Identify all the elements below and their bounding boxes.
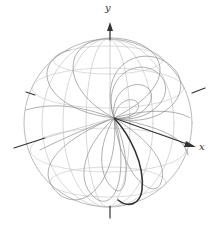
x-axis-label: x — [199, 141, 205, 152]
sphere-diagram — [0, 0, 215, 230]
y-axis-label: y — [105, 2, 111, 13]
y-axis-arrowhead — [107, 22, 113, 31]
highlighted-curve — [114, 118, 142, 204]
meridian-lines — [42, 39, 174, 207]
z-axis-negative-segment — [14, 138, 45, 148]
diagram-stage: y x — [0, 0, 215, 230]
right-tick — [192, 88, 205, 93]
